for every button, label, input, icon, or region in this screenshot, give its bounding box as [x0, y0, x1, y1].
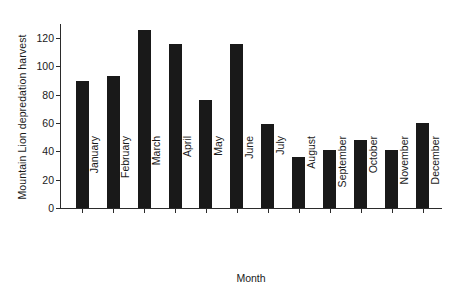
x-axis-tick-label: April: [181, 136, 194, 216]
x-axis-tick: [361, 209, 362, 213]
bar: [76, 81, 89, 209]
y-axis-tick: [56, 38, 60, 39]
x-axis-tick: [237, 209, 238, 213]
x-axis-tick-label: October: [367, 136, 380, 216]
x-axis-tick: [206, 209, 207, 213]
x-axis-tick-label: January: [88, 136, 101, 216]
x-axis-tick-label: December: [429, 136, 442, 216]
bar: [354, 140, 367, 208]
x-axis-title: Month: [60, 272, 442, 285]
bar: [385, 150, 398, 208]
x-axis-tick-label: August: [305, 136, 318, 216]
x-axis-tick-label: May: [212, 136, 225, 216]
bar: [230, 44, 243, 208]
y-axis-tick-label: 0: [48, 203, 54, 214]
bar: [169, 44, 182, 208]
y-axis-tick: [56, 95, 60, 96]
y-axis-tick: [56, 151, 60, 152]
x-axis-tick-label: July: [274, 136, 287, 216]
y-axis-tick: [56, 123, 60, 124]
y-axis-tick-label: 60: [42, 118, 54, 129]
x-axis-tick: [113, 209, 114, 213]
x-axis-tick: [268, 209, 269, 213]
x-axis-tick-label: November: [398, 136, 411, 216]
x-axis-tick: [82, 209, 83, 213]
bar-chart-figure: Mountain Lion depredation harvest 020406…: [0, 0, 465, 299]
y-axis-tick-label: 100: [36, 61, 54, 72]
y-axis-tick-label: 20: [42, 174, 54, 185]
y-axis-tick: [56, 180, 60, 181]
y-axis-tick-label: 80: [42, 89, 54, 100]
bar: [261, 124, 274, 208]
x-axis-tick-label: February: [119, 136, 132, 216]
y-axis-tick: [56, 208, 60, 209]
x-axis-tick: [144, 209, 145, 213]
bar: [323, 150, 336, 208]
y-axis-title: Mountain Lion depredation harvest: [13, 2, 31, 232]
y-axis-tick: [56, 66, 60, 67]
bar: [292, 157, 305, 208]
bar: [107, 76, 120, 208]
x-axis-tick: [423, 209, 424, 213]
x-axis-tick-label: March: [150, 136, 163, 216]
x-axis-tick-label: June: [243, 136, 256, 216]
bar: [199, 100, 212, 208]
x-axis-tick: [299, 209, 300, 213]
x-axis-tick-label: September: [336, 136, 349, 216]
x-axis-tick: [330, 209, 331, 213]
x-axis-tick: [175, 209, 176, 213]
x-axis-tick: [392, 209, 393, 213]
y-axis-tick-label: 120: [36, 33, 54, 44]
plot-area: 020406080100120 JanuaryFebruaryMarchApri…: [60, 24, 442, 209]
bar: [138, 30, 151, 209]
y-axis-tick-label: 40: [42, 146, 54, 157]
bar: [416, 123, 429, 208]
y-axis-line: [60, 24, 61, 209]
